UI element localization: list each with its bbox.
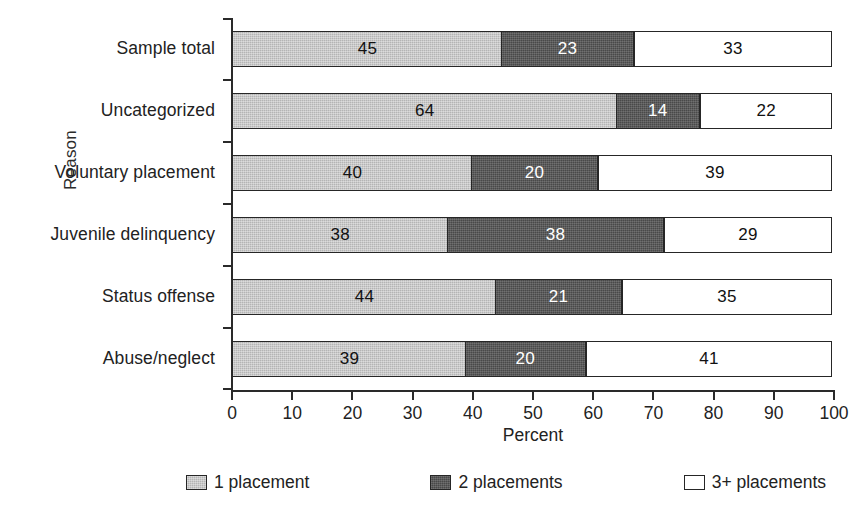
bar-segment-value: 64 (415, 101, 435, 121)
bar-segment-value: 29 (738, 225, 758, 245)
x-axis-tick (351, 392, 353, 400)
bar-segment[interactable]: 39 (232, 341, 467, 377)
legend-swatch-icon (430, 475, 451, 490)
legend-label: 2 placements (458, 472, 562, 493)
bar-segment-value: 33 (723, 39, 743, 59)
legend-item[interactable]: 3+ placements (684, 472, 826, 493)
x-axis-tick-label: 20 (343, 403, 362, 424)
x-axis-tick (833, 392, 835, 400)
legend-swatch-icon (684, 475, 705, 490)
bar-segment-value: 38 (546, 225, 566, 245)
plot-area: 4523336414224020393838294421353920410102… (232, 18, 834, 390)
bar-row: 442135 (232, 279, 834, 315)
legend-label: 1 placement (214, 472, 309, 493)
y-axis-tick (223, 79, 232, 81)
y-axis-tick (223, 265, 232, 267)
bar-segment[interactable]: 20 (465, 341, 585, 377)
x-axis-tick-label: 60 (583, 403, 602, 424)
x-axis-tick (592, 392, 594, 400)
category-label: Status offense (12, 286, 215, 307)
x-axis-tick-label: 90 (764, 403, 783, 424)
x-axis-tick-label: 0 (227, 403, 237, 424)
bar-segment-value: 20 (516, 349, 536, 369)
bar-segment[interactable]: 21 (495, 279, 621, 315)
category-label: Juvenile delinquency (12, 224, 215, 245)
y-axis-tick (223, 203, 232, 205)
bar-segment[interactable]: 29 (664, 217, 833, 253)
chart-legend: 1 placement2 placements3+ placements (186, 472, 826, 493)
bar-segment-value: 35 (717, 287, 737, 307)
bar-segment[interactable]: 45 (232, 31, 503, 67)
bar-segment[interactable]: 64 (232, 93, 617, 129)
x-axis-tick (652, 392, 654, 400)
bar-segment[interactable]: 44 (232, 279, 497, 315)
y-axis-tick (223, 388, 232, 390)
bar-segment-value: 38 (331, 225, 351, 245)
x-axis-tick-label: 10 (282, 403, 301, 424)
x-axis-tick-label: 30 (403, 403, 422, 424)
x-axis-tick (291, 392, 293, 400)
bar-row: 641422 (232, 93, 834, 129)
bar-segment[interactable]: 14 (616, 93, 700, 129)
bar-segment[interactable]: 38 (232, 217, 449, 253)
legend-item[interactable]: 1 placement (186, 472, 309, 493)
bar-segment[interactable]: 40 (232, 155, 473, 191)
x-axis-tick-label: 40 (463, 403, 482, 424)
bar-segment[interactable]: 20 (471, 155, 597, 191)
bar-segment-value: 45 (358, 39, 378, 59)
bar-segment-value: 20 (525, 163, 545, 183)
bar-row: 392041 (232, 341, 834, 377)
bar-segment-value: 39 (705, 163, 725, 183)
bar-segment[interactable]: 23 (501, 31, 633, 67)
bar-segment-value: 41 (699, 349, 719, 369)
category-label: Voluntary placement (12, 162, 215, 183)
bar-segment-value: 23 (558, 39, 578, 59)
category-label: Abuse/neglect (12, 348, 215, 369)
bar-segment[interactable]: 22 (700, 93, 832, 129)
y-axis-tick (223, 141, 232, 143)
category-label: Uncategorized (12, 100, 215, 121)
bar-segment[interactable]: 35 (622, 279, 833, 315)
bar-segment-value: 14 (648, 101, 668, 121)
bar-chart: Reason Sample totalUncategorizedVoluntar… (0, 0, 861, 514)
y-axis-tick (223, 327, 232, 329)
x-axis-title: Percent (232, 425, 834, 446)
x-axis-tick (231, 392, 233, 400)
bar-row: 383829 (232, 217, 834, 253)
x-axis-tick-label: 80 (704, 403, 723, 424)
bar-segment-value: 22 (756, 101, 776, 121)
x-axis-tick (713, 392, 715, 400)
bar-segment[interactable]: 38 (447, 217, 664, 253)
x-axis-tick (412, 392, 414, 400)
bar-row: 452333 (232, 31, 834, 67)
x-axis-tick-label: 70 (644, 403, 663, 424)
legend-swatch-icon (186, 475, 207, 490)
x-axis-tick-label: 100 (819, 403, 848, 424)
bar-segment-value: 44 (355, 287, 375, 307)
bar-segment[interactable]: 39 (598, 155, 833, 191)
bar-segment-value: 39 (340, 349, 360, 369)
bar-segment[interactable]: 33 (634, 31, 833, 67)
bar-segment-value: 21 (549, 287, 569, 307)
bar-segment[interactable]: 41 (586, 341, 833, 377)
category-label-list: Sample totalUncategorizedVoluntary place… (20, 18, 223, 390)
legend-label: 3+ placements (712, 472, 826, 493)
x-axis-tick (773, 392, 775, 400)
x-axis-tick (472, 392, 474, 400)
bar-row: 402039 (232, 155, 834, 191)
legend-item[interactable]: 2 placements (430, 472, 562, 493)
x-axis-tick-label: 50 (523, 403, 542, 424)
bar-segment-value: 40 (343, 163, 363, 183)
x-axis-tick (532, 392, 534, 400)
category-label: Sample total (12, 38, 215, 59)
y-axis-tick (223, 18, 232, 20)
